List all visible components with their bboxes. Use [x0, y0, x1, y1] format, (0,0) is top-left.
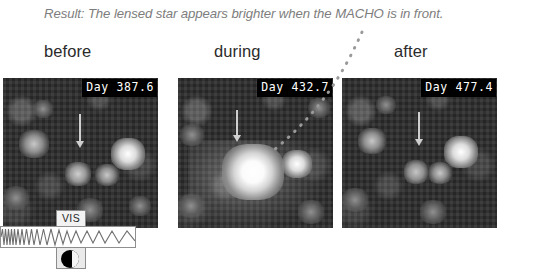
- spectrum-indicator: VIS: [0, 210, 140, 270]
- star-faint: [376, 96, 396, 114]
- spectrum-marker-box: [56, 247, 86, 269]
- spectrum-visible-band-label: VIS: [56, 210, 86, 227]
- phase-label-before: before: [44, 42, 91, 61]
- eye-observation-marker-icon: [61, 250, 79, 268]
- star-mid: [19, 130, 49, 158]
- star-faint: [180, 124, 204, 146]
- phase-label-during: during: [214, 42, 260, 61]
- star-faint: [342, 188, 368, 212]
- lensed-star-before: [65, 162, 91, 186]
- result-caption: Result: The lensed star appears brighter…: [44, 6, 544, 21]
- star-faint: [33, 100, 53, 118]
- pointer-arrow-icon: [236, 110, 238, 136]
- pointer-arrow-icon: [79, 114, 81, 142]
- sky-image-after: Day 477.4: [342, 78, 497, 228]
- star-faint: [178, 194, 204, 218]
- day-stamp-after: Day 477.4: [421, 79, 496, 97]
- star-faint: [3, 186, 29, 210]
- star-mid: [428, 162, 452, 184]
- star-bright: [282, 150, 312, 178]
- day-stamp-before: Day 387.6: [82, 79, 157, 97]
- lensed-star-during: [222, 144, 284, 200]
- lensed-star-after: [404, 160, 428, 184]
- sky-image-during: Day 432.7: [178, 78, 333, 228]
- star-faint: [420, 200, 446, 224]
- star-faint: [308, 98, 330, 118]
- sky-image-before: Day 387.6: [3, 78, 158, 228]
- phase-label-after: after: [394, 42, 428, 61]
- star-mid: [95, 164, 119, 186]
- day-stamp-during: Day 432.7: [257, 79, 332, 97]
- spectrum-waveform: [0, 226, 136, 248]
- star-bright: [111, 138, 145, 170]
- pointer-arrow-icon: [418, 112, 420, 140]
- waveform-icon: [1, 227, 135, 247]
- star-mid: [358, 128, 386, 154]
- star-bright: [444, 136, 478, 168]
- star-faint: [298, 200, 324, 224]
